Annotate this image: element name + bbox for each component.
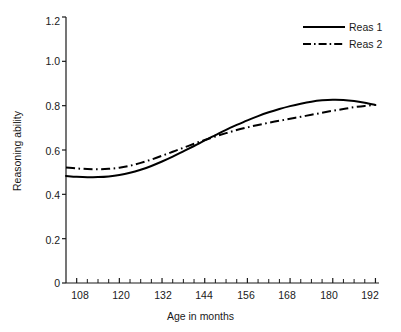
y-tick-label-0-2: 0.2	[26, 235, 60, 246]
y-axis-title: Reasoning ability	[11, 86, 23, 216]
series-line-reas-2	[66, 105, 375, 169]
y-tick-label-0-8: 0.8	[26, 101, 60, 112]
y-tick-label-1-0: 1.0	[26, 56, 60, 67]
legend-label-reas-2: Reas 2	[349, 38, 382, 50]
chart-figure: 1.2 1.0 0.8 0.6 0.4 0.2 0 108 120 132 14…	[0, 0, 401, 332]
x-tick-label-132: 132	[144, 290, 182, 301]
x-axis-title: Age in months	[0, 310, 401, 322]
x-tick-label-168: 168	[268, 290, 306, 301]
y-tick-label-0-4: 0.4	[26, 190, 60, 201]
y-tick-label-0-6: 0.6	[26, 146, 60, 157]
y-tick-label-0: 0	[26, 278, 60, 289]
axis-lines	[66, 17, 379, 283]
plot-canvas	[0, 0, 401, 332]
x-tick-label-120: 120	[102, 290, 140, 301]
x-tick-label-192: 192	[351, 290, 389, 301]
legend-label-reas-1: Reas 1	[349, 21, 382, 33]
x-tick-label-156: 156	[227, 290, 265, 301]
y-tick-label-1-2: 1.2	[26, 16, 60, 27]
x-tick-label-180: 180	[310, 290, 348, 301]
x-tick-label-108: 108	[61, 290, 99, 301]
x-tick-label-144: 144	[185, 290, 223, 301]
